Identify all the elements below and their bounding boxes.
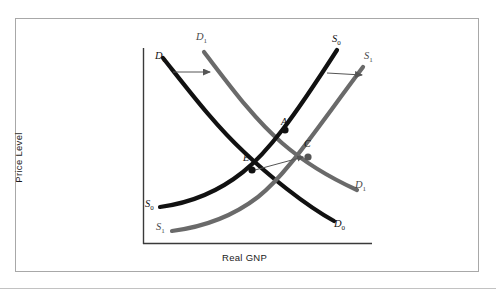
curve-label-d0-top: D0 (155, 50, 166, 64)
equilibrium-move-arrow (255, 157, 303, 170)
curve-label-d1-end: D1 (355, 179, 366, 193)
point-e (248, 166, 255, 173)
point-label-e: E (243, 152, 249, 163)
curve-label-s1-start: S1 (156, 221, 165, 235)
curve-label-s1-top: S1 (364, 50, 373, 64)
chart-page: Price Level Real GNP D0 D1 S0 S1 D1 D0 S… (0, 0, 496, 297)
point-label-a: A (281, 116, 287, 127)
point-a (281, 126, 288, 133)
curve-label-d0-end: D0 (334, 218, 345, 232)
x-axis-title: Real GNP (222, 252, 267, 263)
curve-label-d1-top: D1 (196, 31, 207, 45)
point-label-c: C (304, 138, 311, 149)
curve-label-s0-top: S0 (332, 33, 341, 47)
curve-s0 (160, 50, 337, 207)
curve-label-s0-start: S0 (145, 198, 154, 212)
y-axis-title: Price Level (13, 123, 24, 193)
point-c (304, 153, 311, 160)
